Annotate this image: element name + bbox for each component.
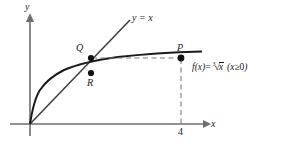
radicand: x [219, 62, 224, 73]
x-tick-label-4: 4 [178, 127, 183, 137]
domain-condition: (x≥0) [227, 62, 248, 72]
function-lhs: f(x) [192, 62, 205, 72]
radical-index: 3 [213, 61, 216, 67]
point-r-marker [88, 70, 94, 76]
line-y-equals-x-label: y = x [132, 13, 153, 23]
math-figure: y x y = x Q R P 4 f(x)=3√x(x≥0) [0, 0, 283, 150]
point-p-label: P [177, 43, 183, 53]
line-y-equals-x [30, 20, 130, 124]
point-q-marker [88, 55, 94, 61]
cube-root-radical: 3√x [211, 62, 224, 73]
condition-close-paren: ) [244, 62, 247, 72]
y-axis-label: y [25, 2, 29, 12]
x-axis-arrowhead [203, 120, 211, 128]
point-q-label: Q [76, 43, 83, 53]
point-p-marker [178, 55, 185, 62]
curve-cube-root [30, 52, 202, 125]
y-axis-arrowhead [26, 13, 34, 22]
x-axis-label: x [211, 119, 215, 129]
function-equation-label: f(x)=3√x(x≥0) [192, 62, 248, 73]
point-r-label: R [87, 78, 93, 88]
